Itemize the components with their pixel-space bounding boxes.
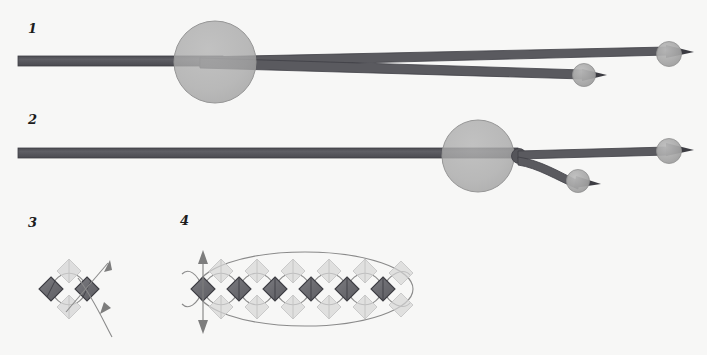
panel1-interaction-sphere — [174, 21, 256, 103]
panel-label-3: 3 — [28, 216, 37, 229]
panel2-end-sphere-straight — [657, 139, 682, 164]
panel1-end-sphere-lower — [573, 64, 596, 87]
panel-2-graphics — [18, 120, 694, 193]
panel-4-graphics — [182, 250, 413, 334]
panel4-node-4 — [299, 277, 323, 301]
panel4-node-5 — [335, 277, 359, 301]
panel1-end-sphere-upper — [657, 42, 682, 67]
panel4-node-2 — [227, 277, 251, 301]
figure-canvas: 1 2 3 4 — [0, 0, 707, 355]
panel-3-graphics — [39, 259, 112, 337]
panel4-node-6 — [371, 277, 395, 301]
panel-label-4: 4 — [180, 214, 189, 227]
panel-label-1: 1 — [28, 22, 37, 35]
panel3-node-left — [39, 277, 63, 301]
panel-1-graphics — [18, 21, 694, 103]
panel-label-2: 2 — [28, 113, 37, 126]
panel2-output-beam-straight — [518, 147, 668, 159]
panel2-end-sphere-curved — [567, 170, 590, 193]
panel4-node-3 — [263, 277, 287, 301]
schematic-svg — [0, 0, 707, 355]
panel2-interaction-sphere — [442, 120, 514, 192]
panel3-ghost-diamond-top — [57, 259, 81, 283]
